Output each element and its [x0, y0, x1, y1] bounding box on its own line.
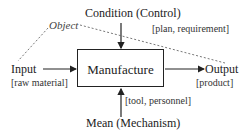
- control-detail: [plan, requirement]: [152, 24, 229, 34]
- control-label: Condition (Control): [85, 7, 181, 19]
- mechanism-label: Mean (Mechanism): [86, 117, 180, 129]
- process-box: Manufacture: [77, 49, 164, 87]
- output-detail: [product]: [196, 78, 233, 88]
- object-dashed-line-left: [18, 28, 48, 61]
- mechanism-detail: [tool, personnel]: [125, 96, 191, 106]
- input-detail: [raw material]: [11, 78, 68, 88]
- object-label: Object: [49, 20, 78, 31]
- process-label: Manufacture: [78, 62, 163, 78]
- output-label: Output: [205, 63, 238, 75]
- input-label: Input: [11, 63, 36, 75]
